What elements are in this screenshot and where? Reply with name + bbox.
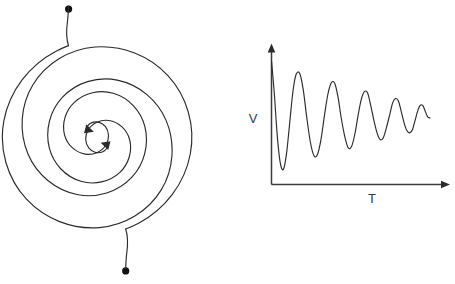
y-axis-arrowhead (268, 44, 276, 53)
spiral-arm-upper-group (22, 47, 192, 275)
oscillation-chart-svg: V T (240, 0, 455, 284)
spiral-diagram-svg (0, 0, 240, 284)
spiral-arm-lower-group (2, 6, 172, 228)
spiral-diagram-panel (0, 0, 240, 284)
x-axis-arrowhead (441, 181, 450, 189)
y-axis-label: V (249, 111, 258, 126)
spiral-arm-upper-tail (126, 229, 128, 269)
figure-root: V T (0, 0, 455, 284)
x-axis-label: T (368, 191, 376, 206)
oscillation-chart-panel: V T (240, 0, 455, 284)
damped-oscillation-curve (272, 61, 431, 170)
